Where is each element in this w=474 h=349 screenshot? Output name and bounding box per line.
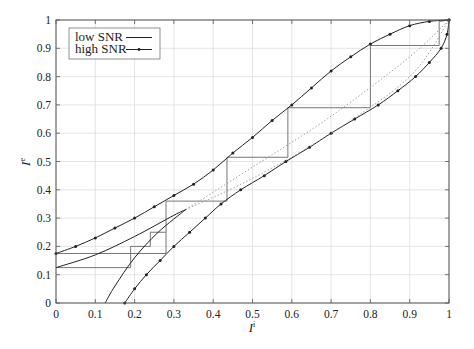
data-marker xyxy=(396,89,399,92)
x-tick-label: 0.2 xyxy=(127,308,142,320)
legend-marker-high-snr xyxy=(138,48,141,51)
data-marker xyxy=(428,61,431,64)
data-marker xyxy=(145,273,148,276)
x-tick-label: 0.6 xyxy=(285,308,300,320)
data-marker xyxy=(239,188,242,191)
y-tick-label: 0 xyxy=(45,297,51,309)
data-marker xyxy=(271,119,274,122)
data-marker xyxy=(172,194,175,197)
legend: low SNR high SNR xyxy=(69,28,160,59)
legend-label-high-snr: high SNR xyxy=(75,41,127,56)
data-marker xyxy=(133,217,136,220)
y-tick-label: 0.2 xyxy=(37,240,52,252)
data-marker xyxy=(284,160,287,163)
y-tick-label: 0.3 xyxy=(37,212,52,224)
y-tick-label: 0.8 xyxy=(37,71,52,83)
y-tick-label: 0.5 xyxy=(37,156,52,168)
data-marker xyxy=(389,33,392,36)
exit-chart: 00.10.20.30.40.50.60.70.80.91 00.10.20.3… xyxy=(0,0,474,349)
data-marker xyxy=(188,231,191,234)
x-tick-label: 0.9 xyxy=(403,308,418,320)
data-marker xyxy=(414,75,417,78)
data-marker xyxy=(408,24,411,27)
data-marker xyxy=(446,33,449,36)
x-tick-label: 0 xyxy=(53,308,59,320)
data-marker xyxy=(310,86,313,89)
data-marker xyxy=(212,168,215,171)
x-tick-label: 0.1 xyxy=(88,308,103,320)
data-marker xyxy=(220,202,223,205)
data-marker xyxy=(204,217,207,220)
x-tick-label: 0.5 xyxy=(245,308,260,320)
data-marker xyxy=(113,227,116,230)
x-tick-label: 0.8 xyxy=(363,308,378,320)
x-axis-label: Ii xyxy=(248,320,256,335)
y-tick-label: 0.9 xyxy=(37,42,52,54)
data-marker xyxy=(192,183,195,186)
data-marker xyxy=(251,136,254,139)
data-marker xyxy=(94,236,97,239)
data-marker xyxy=(231,152,234,155)
y-axis-label: Ie xyxy=(18,158,33,167)
y-tick-label: 0.6 xyxy=(37,127,52,139)
data-marker xyxy=(74,245,77,248)
data-marker xyxy=(440,47,443,50)
data-marker xyxy=(153,205,156,208)
data-marker xyxy=(263,174,266,177)
grid-lines xyxy=(56,20,449,303)
x-tick-label: 0.4 xyxy=(206,308,221,320)
x-tick-label: 1 xyxy=(446,308,452,320)
data-marker xyxy=(369,43,372,46)
y-tick-label: 0.1 xyxy=(37,269,52,281)
y-tick-label: 1 xyxy=(45,14,51,26)
y-tick-label: 0.7 xyxy=(37,99,52,111)
data-marker xyxy=(349,55,352,58)
data-marker xyxy=(172,245,175,248)
x-tick-label: 0.7 xyxy=(324,308,339,320)
data-marker xyxy=(377,103,380,106)
x-tick-label: 0.3 xyxy=(167,308,182,320)
data-marker xyxy=(290,103,293,106)
data-marker xyxy=(159,259,162,262)
y-tick-label: 0.4 xyxy=(37,184,52,196)
data-marker xyxy=(133,287,136,290)
data-marker xyxy=(330,69,333,72)
